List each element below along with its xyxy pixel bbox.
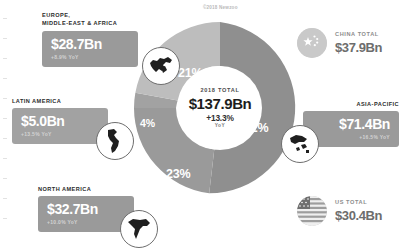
copyright-notice: ©2018 Newzoo [203,5,238,10]
region-title-emea: EUROPE, MIDDLE-EAST & AFRICA [42,11,138,28]
total-value-china: $37.9Bn [335,41,382,54]
region-yoy-asia-pacific: +16.5% YoY [312,135,390,140]
scan-ruler-ticks [3,0,7,248]
center-total-growth-unit: YoY [215,124,225,129]
europe-middle-east-africa-map-icon [142,47,180,85]
total-value-us: $30.4Bn [335,209,382,222]
center-total-label: 2018 TOTAL [200,88,239,94]
total-text-china: CHINA TOTAL $37.9Bn [335,32,382,54]
total-label-us: US TOTAL [335,200,382,206]
region-pill-latin-america: $5.0Bn +13.5% YoY [12,108,108,144]
north-america-map-icon [120,210,158,248]
region-card-asia-pacific: ASIA-PACIFIC $71.4Bn +16.5% YoY [303,100,399,147]
china-flag-icon [297,28,327,58]
region-title-north-america: NORTH AMERICA [38,185,134,193]
center-total-value: $137.9Bn [189,96,252,111]
region-value-emea: $28.7Bn [51,37,129,51]
region-card-emea: EUROPE, MIDDLE-EAST & AFRICA $28.7Bn +8.… [42,11,138,67]
region-yoy-north-america: +10.0% YoY [47,220,125,225]
region-pill-emea: $28.7Bn +8.9% YoY [42,31,138,67]
latin-america-map-icon [96,122,134,160]
total-block-us: US TOTAL $30.4Bn [297,196,382,226]
region-value-north-america: $32.7Bn [47,202,125,216]
region-pill-north-america: $32.7Bn +10.0% YoY [38,196,134,232]
total-block-china: CHINA TOTAL $37.9Bn [297,28,382,58]
region-yoy-latin-america: +13.5% YoY [21,132,99,137]
region-title-asia-pacific: ASIA-PACIFIC [303,100,399,108]
region-card-north-america: NORTH AMERICA $32.7Bn +10.0% YoY [38,185,134,232]
us-flag-icon [297,196,327,226]
region-card-latin-america: LATIN AMERICA $5.0Bn +13.5% YoY [12,97,108,144]
region-yoy-emea: +8.9% YoY [51,55,129,60]
donut-percent-north-america: 23% [166,167,190,181]
region-title-latin-america: LATIN AMERICA [12,97,108,105]
donut-center-total: 2018 TOTAL $137.9Bn +13.3% YoY [178,66,262,150]
asia-pacific-map-icon [281,125,319,163]
region-pill-asia-pacific: $71.4Bn +16.5% YoY [303,111,399,147]
donut-percent-latin-america: 4% [140,117,155,129]
total-label-china: CHINA TOTAL [335,32,382,38]
region-value-latin-america: $5.0Bn [21,114,99,128]
region-value-asia-pacific: $71.4Bn [312,117,390,131]
total-text-us: US TOTAL $30.4Bn [335,200,382,222]
infographic-canvas: ©2018 Newzoo 21% 52% 23% 4% 2018 TOTAL $… [0,0,410,248]
center-total-growth: +13.3% [206,114,233,122]
